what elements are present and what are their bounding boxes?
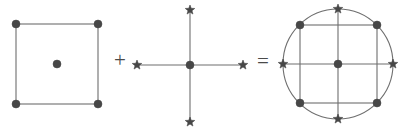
square-term-dot-bottom-right [94,100,102,108]
cross-term [132,5,248,126]
terms-layer [12,4,398,126]
result-term-dot-top-left [296,21,304,29]
square-term-dot-top-left [12,20,20,28]
cross-term-star-bottom [185,117,195,126]
result-term-dot-bottom-right [373,99,381,107]
result-term-dot-top-right [373,21,381,29]
figure-diagram: + = [0,0,406,130]
result-term-dot-bottom-left [296,99,304,107]
plus-operator-symbol: + [110,50,130,72]
result-term [278,4,398,123]
square-term-dot-bottom-left [12,100,20,108]
result-term-star-bottom [333,114,343,123]
cross-term-dot-center [186,61,194,69]
equals-operator-symbol: = [252,51,274,73]
cross-term-star-right [238,60,248,69]
cross-term-star-left [132,60,142,69]
square-term-dot-center [53,60,61,68]
square-term [12,20,102,108]
diagram-canvas [0,0,406,130]
result-term-dot-center [334,60,342,68]
square-term-dot-top-right [94,20,102,28]
